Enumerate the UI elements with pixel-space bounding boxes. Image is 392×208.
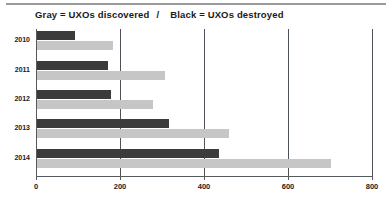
x-tick-label-600: 600 — [282, 182, 295, 191]
x-tick-label-0: 0 — [34, 182, 38, 191]
gridline-600 — [288, 29, 289, 176]
chart-figure: Gray = UXOs discovered/Black = UXOs dest… — [0, 0, 392, 208]
bar-discovered-2012 — [37, 100, 153, 109]
y-tick-label-2011: 2011 — [2, 66, 30, 73]
bar-discovered-2010 — [37, 41, 113, 50]
y-tick-label-2010: 2010 — [2, 36, 30, 43]
x-tick-600 — [288, 176, 289, 180]
chart-title: Gray = UXOs discovered/Black = UXOs dest… — [35, 9, 284, 20]
y-tick-label-2012: 2012 — [2, 95, 30, 102]
header-divider — [6, 3, 386, 5]
x-tick-0 — [36, 176, 37, 180]
bar-discovered-2014 — [37, 159, 331, 168]
bar-discovered-2011 — [37, 71, 165, 80]
bar-destroyed-2011 — [37, 61, 108, 70]
bar-destroyed-2012 — [37, 90, 111, 99]
x-tick-400 — [204, 176, 205, 180]
title-separator: / — [149, 9, 166, 20]
x-tick-800 — [372, 176, 373, 180]
x-tick-label-200: 200 — [114, 182, 127, 191]
x-tick-label-800: 800 — [366, 182, 379, 191]
bar-destroyed-2013 — [37, 119, 169, 128]
plot-area: 0200400600800 — [36, 29, 372, 176]
x-tick-label-400: 400 — [198, 182, 211, 191]
legend-label-black: Black = UXOs destroyed — [166, 9, 283, 20]
bar-discovered-2013 — [37, 129, 229, 138]
y-tick-label-2013: 2013 — [2, 124, 30, 131]
x-tick-200 — [120, 176, 121, 180]
bar-destroyed-2014 — [37, 149, 219, 158]
y-tick-label-2014: 2014 — [2, 154, 30, 161]
gridline-800 — [372, 29, 373, 176]
legend-label-gray: Gray = UXOs discovered — [35, 9, 149, 20]
bar-destroyed-2010 — [37, 31, 75, 40]
